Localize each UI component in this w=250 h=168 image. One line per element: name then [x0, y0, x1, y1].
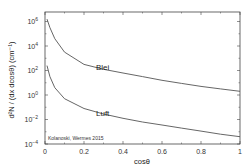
y-tick-label: 106 [27, 16, 38, 25]
x-tick-label: 0.2 [79, 148, 89, 155]
y-axis-label: d²N / (dx dcosθ) (cm⁻¹) [7, 41, 16, 118]
y-tick-label: 10−2 [25, 114, 39, 123]
curve-luft [47, 66, 240, 137]
x-axis-label: cosθ [134, 157, 150, 166]
chart: 00.20.40.60.81 10610410210010−210−4 Blei… [0, 0, 250, 168]
x-tick-label: 0.8 [196, 148, 206, 155]
x-tick-label: 0.4 [118, 148, 128, 155]
x-tick-label: 1 [238, 148, 242, 155]
curves [47, 19, 240, 137]
y-tick-label: 10−4 [25, 139, 39, 148]
x-tick-label: 0.6 [157, 148, 167, 155]
plot-frame [45, 12, 240, 144]
y-tick-label: 100 [27, 90, 38, 99]
x-tick-label: 0 [43, 148, 47, 155]
y-tick-label: 104 [27, 41, 38, 50]
y-axis-ticks: 10610410210010−210−4 [25, 16, 241, 148]
curve-blei [47, 19, 240, 91]
curve-label-luft: Luft [96, 109, 110, 118]
credit-text: Kolanoski, Wermes 2015 [48, 135, 104, 141]
y-tick-label: 102 [27, 65, 38, 74]
curve-label-blei: Blei [96, 63, 110, 72]
